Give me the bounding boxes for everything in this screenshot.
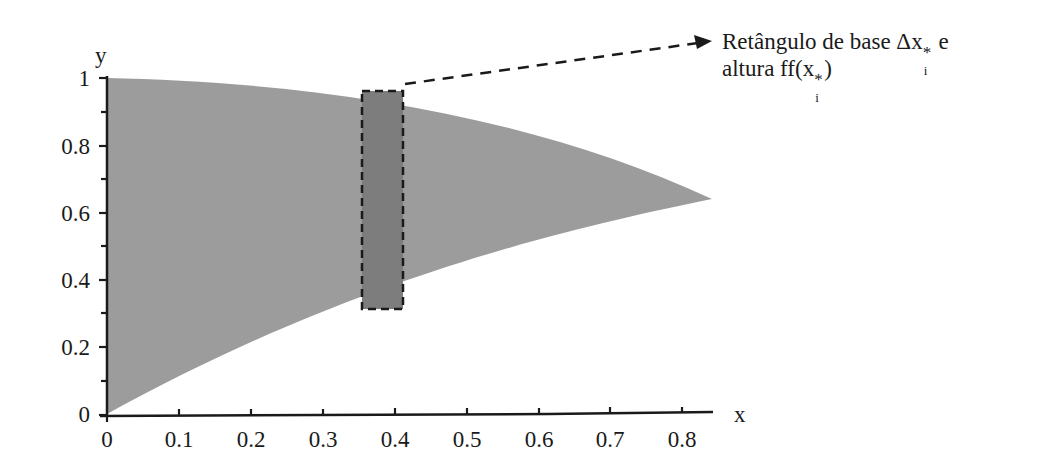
y-tick-label: 1 bbox=[30, 67, 90, 90]
x-tick-label: 0.7 bbox=[585, 428, 635, 451]
annotation-line-1: Retângulo de base Δx*i e bbox=[722, 28, 949, 55]
y-tick-label: 0 bbox=[30, 403, 90, 426]
y-tick-label: 0.8 bbox=[30, 135, 90, 158]
annotation-line-2: altura ff(x*i) bbox=[722, 55, 949, 82]
y-axis-label: y bbox=[95, 44, 107, 67]
x-tick-label: 0 bbox=[82, 428, 132, 451]
x-tick-label: 0.8 bbox=[657, 428, 707, 451]
x-tick-label: 0.6 bbox=[514, 428, 564, 451]
dashed-arrow-line bbox=[405, 43, 698, 84]
x-tick-label: 0.4 bbox=[370, 428, 420, 451]
x-tick-label: 0.5 bbox=[442, 428, 492, 451]
x-tick-label: 0.3 bbox=[298, 428, 348, 451]
x-axis-label: x bbox=[734, 403, 746, 426]
shaded-region bbox=[107, 78, 712, 414]
rectangle-annotation: Retângulo de base Δx*i e altura ff(x*i) bbox=[722, 28, 949, 82]
x-tick-label: 0.1 bbox=[154, 428, 204, 451]
y-tick-label: 0.4 bbox=[30, 269, 90, 292]
y-tick-label: 0.6 bbox=[30, 202, 90, 225]
highlight-rectangle bbox=[362, 91, 403, 309]
x-tick-label: 0.2 bbox=[226, 428, 276, 451]
y-tick-label: 0.2 bbox=[30, 336, 90, 359]
arrow-head-icon bbox=[694, 35, 712, 49]
